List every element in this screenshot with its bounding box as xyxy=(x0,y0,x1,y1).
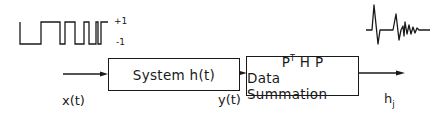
output-label: hj xyxy=(384,91,395,109)
input-signal-label: x(t) xyxy=(62,93,85,108)
data-summation-block: PT H P Data Summation xyxy=(246,56,359,96)
input-arrowhead-icon xyxy=(100,72,108,77)
pthp-label: PT H P xyxy=(282,51,324,70)
data-summation-label: Data Summation xyxy=(247,70,358,102)
system-block: System h(t) xyxy=(108,58,240,91)
level-low-label: -1 xyxy=(116,37,125,47)
output-arrowhead-icon xyxy=(396,71,405,76)
square-wave-icon xyxy=(20,22,108,44)
level-high-label: +1 xyxy=(114,16,127,26)
system-block-label: System h(t) xyxy=(133,67,215,83)
intermediate-signal-label: y(t) xyxy=(218,92,241,107)
impulse-response-waveform-icon xyxy=(366,5,430,44)
